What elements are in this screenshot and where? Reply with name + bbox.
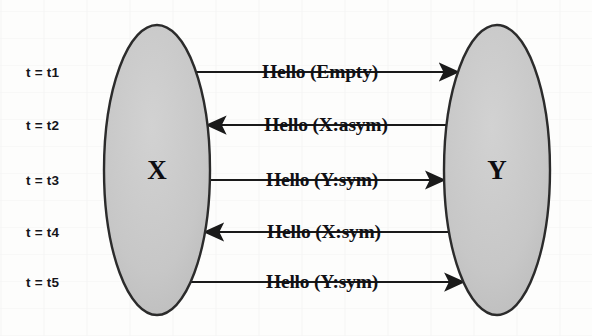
time-label-t3: t = t3 <box>26 173 59 188</box>
message-label-t3: Hello (Y:sym) <box>266 169 378 191</box>
message-label-t1: Hello (Empty) <box>262 61 378 83</box>
message-label-t4: Hello (X:sym) <box>267 221 381 243</box>
time-label-t1: t = t1 <box>26 65 59 80</box>
figure-canvas: X Y t = t1t = t2t = t3t = t4t = t5 Hello… <box>0 0 592 336</box>
time-label-t2: t = t2 <box>26 118 59 133</box>
message-label-t5: Hello (Y:sym) <box>266 271 378 293</box>
time-label-t5: t = t5 <box>26 275 59 290</box>
node-label-y: Y <box>487 155 507 186</box>
message-label-t2: Hello (X:asym) <box>264 114 387 136</box>
time-label-t4: t = t4 <box>26 225 59 240</box>
node-label-x: X <box>147 155 167 186</box>
